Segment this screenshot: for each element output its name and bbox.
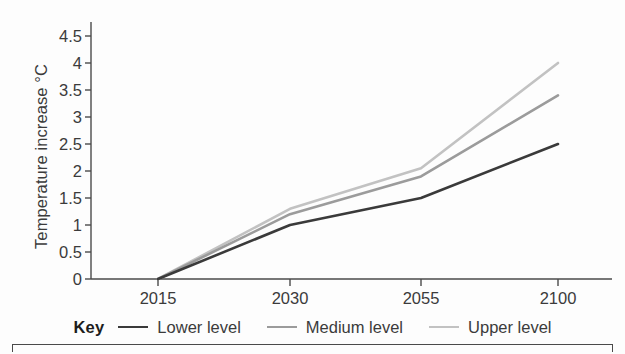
y-axis-tick-label: 2 (40, 162, 82, 181)
y-axis-tick-label: 4 (40, 54, 82, 73)
legend-label: Lower level (157, 318, 240, 337)
chart-figure: Temperature increase °C 00.511.522.533.5… (0, 0, 625, 354)
x-axis-tick-label: 2100 (540, 289, 577, 308)
legend-entry: Lower level (118, 318, 240, 337)
y-axis-tick-label: 0.5 (40, 243, 82, 262)
chart-legend: Key Lower levelMedium levelUpper level (0, 315, 625, 339)
y-axis-tick-label: 1 (40, 216, 82, 235)
y-axis-tick-label: 3 (40, 108, 82, 127)
y-axis-tick-label: 2.5 (40, 135, 82, 154)
legend-swatch-line (267, 326, 297, 328)
legend-entry: Upper level (429, 318, 551, 337)
legend-entry: Medium level (267, 318, 403, 337)
line-chart-svg (0, 0, 625, 310)
plot-area: 00.511.522.533.544.52015203020552100 (0, 0, 625, 310)
legend-label: Upper level (468, 318, 551, 337)
x-axis-tick-label: 2015 (140, 289, 177, 308)
legend-entry-list: Lower levelMedium levelUpper level (118, 318, 551, 337)
legend-swatch-line (118, 326, 148, 328)
y-axis-tick-label: 1.5 (40, 189, 82, 208)
x-axis-tick-label: 2055 (403, 289, 440, 308)
y-axis-tick-label: 0 (40, 270, 82, 289)
y-axis-tick-label: 4.5 (40, 27, 82, 46)
legend-swatch-line (429, 326, 459, 328)
legend-label: Medium level (306, 318, 403, 337)
x-axis-tick-label: 2030 (272, 289, 309, 308)
y-axis-tick-label: 3.5 (40, 81, 82, 100)
legend-key-label: Key (73, 318, 104, 337)
series-line-upper-level (158, 63, 558, 279)
series-line-lower-level (158, 144, 558, 279)
figure-bottom-rule (12, 344, 613, 352)
